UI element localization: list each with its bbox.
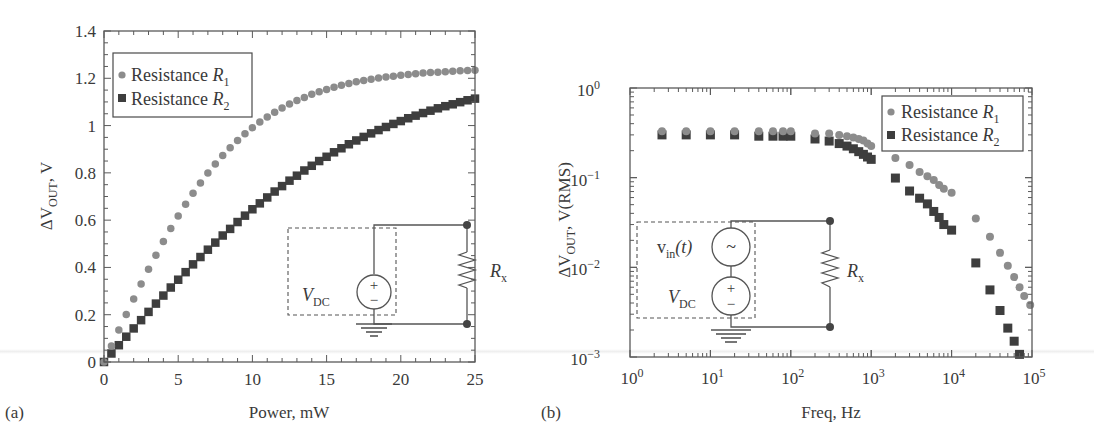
ground-symbol-icon [711,330,751,342]
panel-a-legend: Resistance R1 Resistance R2 [113,53,252,117]
data-point-r1 [375,74,383,82]
y-tick-label: 0.2 [75,306,96,325]
panel-a-circuit-inset [288,221,475,336]
data-point-r1 [940,185,948,193]
data-point-r2 [419,109,428,118]
dc-source-plus-sign: + [727,280,735,296]
data-point-r1 [338,81,346,89]
data-point-r2 [167,283,176,292]
data-point-r1 [330,84,338,92]
data-point-r1 [174,212,182,220]
data-point-r1 [658,127,666,135]
panel-a-x-axis-label: Power, mW [249,403,330,422]
x-tick-label: 0 [100,370,109,389]
data-point-r2 [426,106,435,115]
data-point-r1 [787,127,795,135]
data-point-r1 [434,68,442,76]
data-point-r1 [241,130,249,138]
panel-a: 0510152025 00.20.40.60.811.21.4 Resistan… [5,22,507,422]
data-point-r1 [755,127,763,135]
panel-a-y-tick-labels: 00.20.40.60.811.21.4 [75,22,97,372]
data-point-r2 [389,120,398,129]
node-dot-bottom [826,323,834,331]
data-point-r2 [159,291,168,300]
data-point-r2 [241,211,250,220]
data-point-r2 [270,187,279,196]
data-point-r1 [891,154,899,162]
data-point-r2 [463,96,472,105]
data-point-r1 [212,160,220,168]
data-point-r2 [867,155,876,164]
legend-r2-square-marker-icon [887,131,895,139]
data-point-r1 [1016,283,1024,291]
x-tick-label: 25 [467,370,484,389]
data-point-r1 [825,130,833,138]
data-point-r1 [234,137,242,145]
data-point-r1 [293,97,301,105]
x-tick-label: 105 [1023,366,1046,388]
resistor-rx-icon [459,252,475,288]
data-point-r2 [293,171,302,180]
data-point-r1 [916,168,924,176]
data-point-r1 [353,78,361,86]
data-point-r2 [915,194,924,203]
panel-b-vin-label: vin(t) [657,237,692,261]
data-point-r1 [442,68,450,76]
figure: 0510152025 00.20.40.60.811.21.4 Resistan… [0,0,1094,448]
data-point-r1 [263,113,271,121]
panel-b-label: (b) [541,403,561,422]
data-point-r1 [197,179,205,187]
legend-r2-square-marker-icon [118,94,126,102]
y-tick-label: 0.4 [75,258,97,277]
x-tick-label: 102 [781,366,804,388]
data-point-r1 [345,80,353,88]
data-point-r1 [779,127,787,135]
data-point-r1 [867,142,875,150]
resistor-rx-icon [822,250,838,287]
y-tick-label: 10−3 [570,347,600,369]
data-point-r2 [835,139,844,148]
node-dot-bottom [463,320,471,328]
data-point-r2 [129,324,138,333]
data-point-r2 [322,153,331,162]
data-point-r1 [123,311,131,319]
data-point-r1 [731,127,739,135]
panel-b: 100101102103104105 10010−110−210−3 Resis… [541,78,1046,422]
data-point-r1 [948,189,956,197]
x-tick-label: 103 [862,366,885,388]
data-point-r2 [891,174,900,183]
data-point-r2 [456,98,465,107]
y-tick-label: 0.8 [75,164,96,183]
data-point-r2 [374,126,383,135]
data-point-r1 [219,152,227,160]
data-point-r2 [181,268,190,277]
data-point-r2 [122,332,131,341]
data-point-r1 [367,75,375,83]
data-point-r2 [337,144,346,153]
panel-b-rx-label: Rx [846,261,864,285]
y-tick-label: 0 [88,353,97,372]
data-point-r1 [308,91,316,99]
data-point-r2 [905,187,914,196]
data-point-r2 [174,275,183,284]
data-point-r2 [152,299,161,308]
dc-source-minus-sign: − [727,296,735,312]
panel-b-x-axis-label: Freq, Hz [801,403,861,422]
data-point-r1 [1020,292,1028,300]
data-point-r1 [1004,262,1012,270]
data-point-r2 [218,231,227,240]
data-point-r1 [397,71,405,79]
data-point-r1 [160,238,168,246]
y-tick-label: 1 [88,117,97,136]
data-point-r2 [434,104,443,113]
x-tick-label: 10 [244,370,261,389]
x-tick-label: 5 [174,370,183,389]
y-tick-label: 1.4 [75,22,97,41]
x-tick-label: 100 [621,366,644,388]
data-point-r1 [315,88,323,96]
data-point-r1 [449,67,457,75]
x-tick-label: 104 [942,366,965,388]
data-point-r2 [285,176,294,185]
data-point-r2 [278,182,287,191]
data-point-r1 [1026,301,1034,309]
